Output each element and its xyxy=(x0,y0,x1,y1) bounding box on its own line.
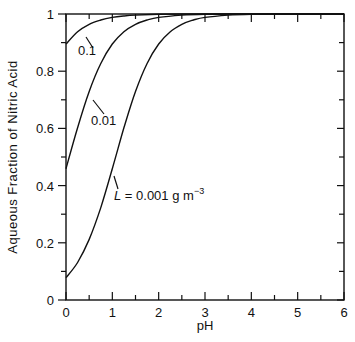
leader-line-0.01 xyxy=(93,100,104,114)
series-label-0.1: 0.1 xyxy=(78,43,96,58)
series-label-value: = 0.001 g m xyxy=(121,188,194,203)
curves xyxy=(66,14,344,278)
y-axis-title: Aqueous Fraction of Nitric Acid xyxy=(5,60,20,253)
x-tick-label: 5 xyxy=(294,305,301,320)
axis-ticks xyxy=(58,14,344,300)
plot-frame xyxy=(66,14,344,300)
x-tick-label: 6 xyxy=(340,305,347,320)
chart: 012345600.20.40.60.81 0.1 0.01 L = 0.001… xyxy=(0,0,355,342)
x-tick-label: 4 xyxy=(248,305,255,320)
y-tick-label: 0.6 xyxy=(36,121,54,136)
y-tick-label: 0 xyxy=(47,293,54,308)
y-tick-label: 0.8 xyxy=(36,64,54,79)
x-axis-title: pH xyxy=(197,318,214,333)
curve-L-0.001 xyxy=(66,14,344,278)
curve-L-0.01 xyxy=(66,14,344,169)
y-tick-label: 0.2 xyxy=(36,236,54,251)
x-tick-label: 0 xyxy=(62,305,69,320)
series-label-exponent: −3 xyxy=(194,186,204,196)
y-tick-label: 0.4 xyxy=(36,179,54,194)
y-tick-label: 1 xyxy=(47,7,54,22)
x-tick-label: 2 xyxy=(155,305,162,320)
series-label-0.001: L = 0.001 g m−3 xyxy=(114,186,204,203)
x-tick-label: 1 xyxy=(109,305,116,320)
series-label-L: L xyxy=(114,188,121,203)
series-label-0.01: 0.01 xyxy=(91,113,116,128)
